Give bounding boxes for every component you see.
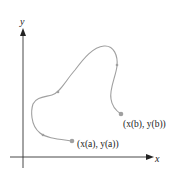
start-point (70, 139, 75, 144)
direction-marker-icon (116, 64, 119, 67)
start-point-label: (x(a), y(a)) (77, 139, 119, 150)
x-axis-label: x (154, 153, 160, 164)
end-point-label: (x(b), y(b)) (123, 119, 166, 130)
curve-path (32, 46, 121, 141)
direction-marker-icon (57, 91, 60, 94)
end-point (119, 112, 124, 117)
parametric-curve-diagram: y x (x(a), y(a)) (x(b), y(b)) (0, 0, 181, 182)
x-axis-arrow-icon (146, 154, 154, 160)
y-axis-label: y (19, 16, 25, 27)
y-axis-arrow-icon (20, 28, 26, 36)
direction-marker-icon (42, 134, 45, 137)
